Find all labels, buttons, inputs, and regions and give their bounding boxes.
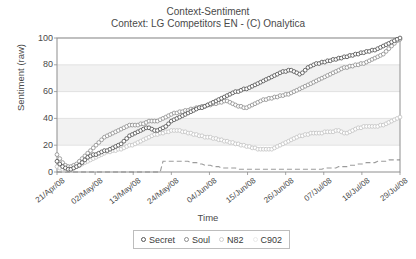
data-point [398, 36, 402, 40]
legend-marker-icon [141, 237, 146, 242]
legend-label: Soul [192, 235, 210, 245]
legend-item-n82[interactable]: N82 [219, 235, 244, 245]
series-c902 [57, 160, 400, 172]
chart-figure: Context-Sentiment Context: LG Competitor… [0, 0, 416, 259]
series-line [57, 160, 400, 172]
legend-item-secret[interactable]: Secret [141, 235, 175, 245]
legend-marker-icon [253, 237, 258, 242]
legend-label: C902 [261, 235, 283, 245]
data-point [398, 115, 402, 119]
legend-item-c902[interactable]: C902 [253, 235, 283, 245]
chart-legend: Secret Soul N82 C902 [133, 230, 290, 249]
legend-item-soul[interactable]: Soul [184, 235, 210, 245]
legend-marker-icon [219, 237, 224, 242]
plot-area [0, 0, 416, 259]
legend-label: N82 [227, 235, 244, 245]
legend-marker-icon [184, 237, 189, 242]
legend-label: Secret [149, 235, 175, 245]
data-point [55, 153, 59, 157]
